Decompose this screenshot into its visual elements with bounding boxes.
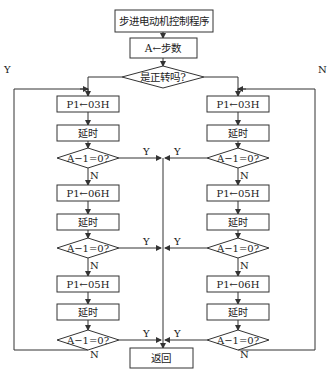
right-check-label-2: A−1=0? — [216, 243, 259, 254]
right-output-label-3: P1←06H — [217, 279, 260, 290]
direction-decision-label: 是正转吗? — [140, 71, 186, 83]
right-yes-label-2: Y — [173, 236, 181, 247]
right-output-label-2: P1←05H — [217, 188, 260, 199]
right-no-label-1: N — [240, 170, 249, 181]
left-yes-label-2: Y — [142, 236, 150, 247]
right-check-label-3: A−1=0? — [216, 335, 259, 346]
left-no-label-3: N — [90, 349, 99, 360]
left-output-label-3: P1←05H — [67, 279, 110, 290]
direction-yes-label: Y — [3, 64, 11, 75]
right-yes-label-1: Y — [173, 146, 181, 157]
right-output-label-1: P1←03H — [217, 99, 260, 110]
init-label: A←步数 — [144, 42, 182, 54]
left-delay-label-2: 延时 — [78, 217, 98, 228]
left-no-label-1: N — [90, 170, 99, 181]
right-delay-label-2: 延时 — [228, 217, 248, 228]
left-delay-label-1: 延时 — [78, 128, 98, 139]
right-yes-label-3: Y — [173, 328, 181, 339]
right-delay-label-3: 延时 — [228, 307, 248, 318]
left-check-label-1: A−1=0? — [66, 153, 109, 164]
right-no-label-2: N — [240, 260, 249, 271]
right-check-label-1: A−1=0? — [216, 153, 259, 164]
start-label: 步进电动机控制程序 — [119, 15, 209, 27]
right-delay-label-1: 延时 — [228, 128, 248, 139]
left-yes-label-1: Y — [142, 146, 150, 157]
left-delay-label-3: 延时 — [78, 307, 98, 318]
left-output-label-1: P1←03H — [67, 99, 110, 110]
direction-no-label: N — [318, 64, 327, 75]
left-check-label-3: A−1=0? — [66, 335, 109, 346]
left-output-label-2: P1←06H — [67, 188, 110, 199]
right-no-label-3: N — [240, 349, 249, 360]
end-label: 返回 — [151, 352, 171, 364]
left-yes-label-3: Y — [142, 328, 150, 339]
left-check-label-2: A−1=0? — [66, 243, 109, 254]
left-no-label-2: N — [90, 260, 99, 271]
stepper-motor-flowchart: 步进电动机控制程序 A←步数 是正转吗? Y N P1←03H 延时 A−1=0… — [0, 0, 328, 376]
